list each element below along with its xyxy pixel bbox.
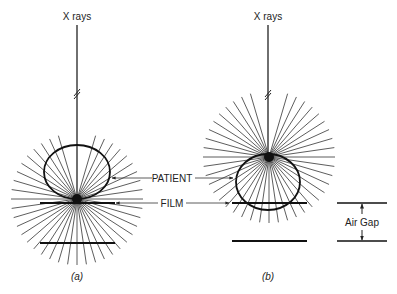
caption-b: (b) (262, 271, 274, 282)
air-gap-label: Air Gap (345, 217, 379, 228)
xray-label-a: X rays (63, 11, 91, 22)
film-label: FILM (161, 198, 184, 209)
panel-a: X rays (a) (11, 11, 143, 282)
xray-label-b: X rays (254, 11, 282, 22)
panel-b: X rays (b) (203, 11, 335, 282)
air-gap-legend: Air Gap (337, 203, 387, 241)
patient-label: PATIENT (152, 173, 193, 184)
scatter-origin-b (264, 152, 274, 162)
caption-a: (a) (71, 271, 83, 282)
diagram-canvas: X rays (a) X rays (b) PATIENT FILM (0, 0, 397, 294)
